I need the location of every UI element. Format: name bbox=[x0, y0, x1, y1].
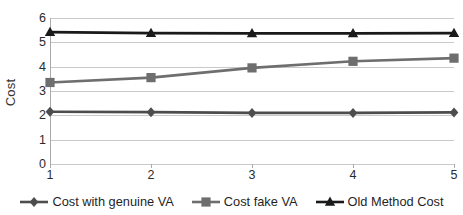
data-point bbox=[349, 108, 358, 118]
legend-label: Old Method Cost bbox=[348, 196, 444, 209]
legend-label: Cost with genuine VA bbox=[52, 196, 173, 209]
data-point bbox=[248, 108, 257, 118]
data-point bbox=[45, 78, 54, 87]
legend-label: Cost fake VA bbox=[224, 196, 298, 209]
data-point bbox=[450, 107, 459, 117]
series-2 bbox=[45, 54, 458, 88]
line-chart: Cost 6543210 12345 Cost with genuine VAC… bbox=[0, 0, 463, 215]
square-marker-icon bbox=[191, 195, 221, 209]
data-point bbox=[46, 107, 55, 117]
chart-legend: Cost with genuine VACost fake VAOld Meth… bbox=[0, 191, 463, 213]
data-point bbox=[449, 54, 458, 63]
series-1 bbox=[46, 107, 459, 118]
legend-item-2[interactable]: Cost fake VA bbox=[191, 195, 298, 209]
legend-item-1[interactable]: Cost with genuine VA bbox=[19, 195, 173, 209]
series-3 bbox=[45, 27, 459, 37]
triangle-marker-icon bbox=[315, 195, 345, 209]
series-layer bbox=[0, 0, 463, 215]
legend-item-3[interactable]: Old Method Cost bbox=[315, 195, 444, 209]
data-point bbox=[146, 73, 155, 82]
data-point bbox=[348, 57, 357, 66]
diamond-marker-icon bbox=[19, 195, 49, 209]
data-point bbox=[247, 63, 256, 72]
data-point bbox=[147, 107, 156, 117]
